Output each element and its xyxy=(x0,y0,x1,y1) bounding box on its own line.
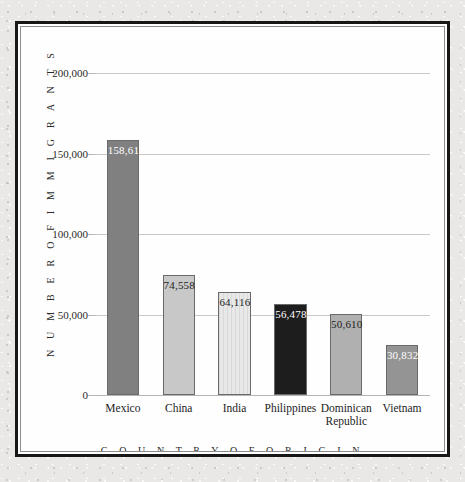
x-axis-title: C O U N T R Y O F O R I G I N xyxy=(21,445,444,452)
x-tick-label: Dominican Republic xyxy=(316,402,376,428)
bar-value-label: 50,610 xyxy=(331,318,361,330)
chart-canvas: 050,000100,000150,000200,000 158,619Mexi… xyxy=(20,26,445,452)
y-axis-title: N U M B E R O F I M M I G R A N T S xyxy=(45,127,56,357)
y-tick-label: 50,000 xyxy=(58,309,95,321)
bar[interactable]: 50,610 xyxy=(330,314,362,395)
bar[interactable]: 64,116 xyxy=(218,292,250,395)
bar-group[interactable]: 74,558China xyxy=(163,73,195,395)
bar-value-label: 64,116 xyxy=(219,296,249,308)
x-tick-label: China xyxy=(149,402,209,415)
bar-group[interactable]: 30,832Vietnam xyxy=(386,73,418,395)
bar[interactable]: 74,558 xyxy=(163,275,195,395)
x-tick-label: Philippines xyxy=(260,402,320,415)
chart-frame: 050,000100,000150,000200,000 158,619Mexi… xyxy=(15,21,450,457)
x-tick-label: India xyxy=(204,402,264,415)
x-tick-label: Vietnam xyxy=(372,402,432,415)
bar-value-label: 30,832 xyxy=(387,349,417,361)
bars-layer: 158,619Mexico74,558China64,116India56,47… xyxy=(95,73,430,395)
bar-texture xyxy=(219,293,249,394)
y-tick-label: 100,000 xyxy=(52,228,95,240)
y-tick-label: 150,000 xyxy=(52,148,95,160)
bar-group[interactable]: 158,619Mexico xyxy=(107,73,139,395)
bar[interactable]: 56,478 xyxy=(274,304,306,395)
bar[interactable]: 30,832 xyxy=(386,345,418,395)
bar-group[interactable]: 64,116India xyxy=(218,73,250,395)
x-tick-label: Mexico xyxy=(93,402,153,415)
bar-group[interactable]: 50,610Dominican Republic xyxy=(330,73,362,395)
y-tick-label: 0 xyxy=(83,389,96,401)
bar-value-label: 56,478 xyxy=(275,308,305,320)
plot-area: 050,000100,000150,000200,000 158,619Mexi… xyxy=(95,73,430,395)
y-tick-label: 200,000 xyxy=(52,67,95,79)
bar-group[interactable]: 56,478Philippines xyxy=(274,73,306,395)
bar[interactable]: 158,619 xyxy=(107,140,139,395)
bar-value-label: 74,558 xyxy=(164,279,194,291)
gridline xyxy=(95,395,430,396)
bar-value-label: 158,619 xyxy=(108,144,138,156)
